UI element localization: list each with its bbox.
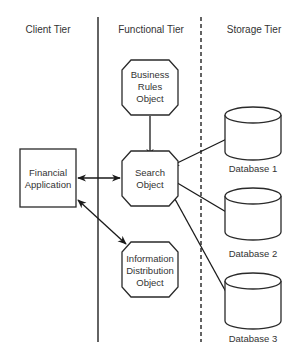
tier-label-storage: Storage Tier bbox=[227, 24, 282, 35]
cylinder-top bbox=[225, 273, 281, 289]
node-label-line: Object bbox=[136, 277, 164, 288]
node-information-distribution-object[interactable]: Information Distribution Object bbox=[122, 242, 178, 297]
rectangle-shape bbox=[20, 149, 76, 207]
node-label-line: Object bbox=[136, 179, 164, 190]
node-label-line: Business bbox=[131, 69, 170, 80]
node-label-line: Object bbox=[136, 93, 164, 104]
node-label-line: Financial bbox=[29, 167, 67, 178]
node-label-line: Information bbox=[126, 253, 174, 264]
node-financial-application[interactable]: Financial Application bbox=[20, 149, 76, 207]
node-business-rules-object[interactable]: Business Rules Object bbox=[122, 60, 178, 115]
node-database-1[interactable]: Database 1 bbox=[225, 107, 281, 174]
cylinder-top bbox=[225, 188, 281, 204]
tier-label-functional: Functional Tier bbox=[118, 24, 184, 35]
cylinder-top bbox=[225, 107, 281, 123]
three-tier-architecture-diagram: Client Tier Functional Tier Storage Tier… bbox=[0, 0, 296, 360]
node-search-object[interactable]: Search Object bbox=[122, 151, 178, 206]
edge-financial-app-info-distribution bbox=[78, 200, 126, 244]
tier-label-client: Client Tier bbox=[25, 24, 71, 35]
node-database-3[interactable]: Database 3 bbox=[225, 273, 281, 344]
database-label: Database 1 bbox=[229, 163, 278, 174]
database-label: Database 2 bbox=[229, 248, 278, 259]
node-label-line: Application bbox=[25, 179, 71, 190]
node-label-line: Rules bbox=[138, 81, 163, 92]
node-database-2[interactable]: Database 2 bbox=[225, 188, 281, 259]
database-label: Database 3 bbox=[229, 333, 278, 344]
node-label-line: Distribution bbox=[126, 265, 174, 276]
node-label-line: Search bbox=[135, 167, 165, 178]
